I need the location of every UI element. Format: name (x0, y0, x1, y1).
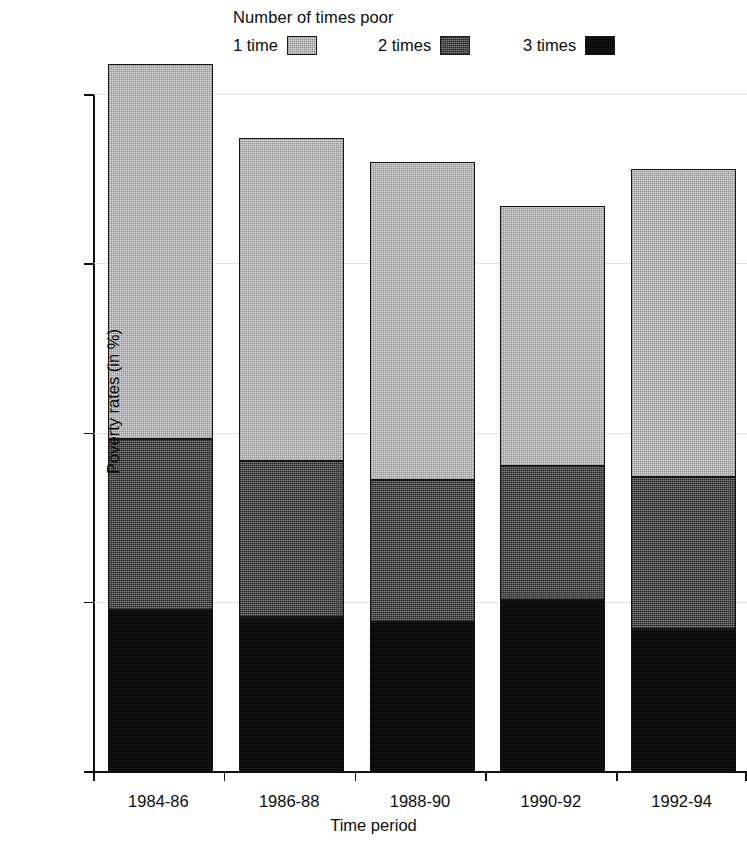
x-tick-mark (745, 771, 747, 781)
x-tick-label: 1990-92 (486, 792, 616, 811)
bar-segment-3-times[interactable] (239, 617, 344, 771)
x-axis-title: Time period (0, 816, 747, 835)
bar-segment-2-times[interactable] (108, 439, 213, 610)
legend-title: Number of times poor (233, 8, 394, 27)
bar-segment-1-time[interactable] (631, 169, 736, 477)
x-tick-label: 1988-90 (355, 792, 485, 811)
bar-segment-2-times[interactable] (239, 461, 344, 617)
bar-1992-94[interactable] (631, 40, 736, 772)
y-tick-mark (84, 263, 93, 265)
bar-segment-1-time[interactable] (239, 138, 344, 461)
bar-segment-3-times[interactable] (108, 610, 213, 771)
stacked-bar-chart: Number of times poor 1 time 2 times 3 ti… (0, 0, 747, 847)
x-tick-mark (93, 771, 95, 781)
x-tick-mark (224, 771, 226, 781)
bar-1984-86[interactable] (108, 40, 213, 772)
bar-1986-88[interactable] (239, 40, 344, 772)
bar-segment-2-times[interactable] (631, 477, 736, 629)
y-tick-mark (84, 94, 93, 96)
bar-segment-1-time[interactable] (370, 162, 475, 480)
x-tick-mark (485, 771, 487, 781)
x-tick-mark (355, 771, 357, 781)
bar-segment-3-times[interactable] (370, 622, 475, 771)
y-tick-mark (84, 433, 93, 435)
x-tick-label: 1992-94 (617, 792, 747, 811)
bar-segment-2-times[interactable] (500, 466, 605, 600)
bar-1988-90[interactable] (370, 40, 475, 772)
bar-segment-1-time[interactable] (500, 206, 605, 467)
bar-segment-3-times[interactable] (500, 600, 605, 771)
y-tick-mark (84, 602, 93, 604)
x-tick-label: 1986-88 (224, 792, 354, 811)
bar-segment-3-times[interactable] (631, 629, 736, 771)
bar-segment-1-time[interactable] (108, 64, 213, 440)
y-tick-mark (84, 771, 93, 773)
bar-1990-92[interactable] (500, 40, 605, 772)
x-tick-label: 1984-86 (93, 792, 223, 811)
y-axis-title: Poverty rates (in %) (104, 282, 123, 522)
bar-segment-2-times[interactable] (370, 480, 475, 622)
x-tick-mark (616, 771, 618, 781)
plot-area: 05101520 1984-861986-881988-901990-92199… (93, 40, 747, 772)
